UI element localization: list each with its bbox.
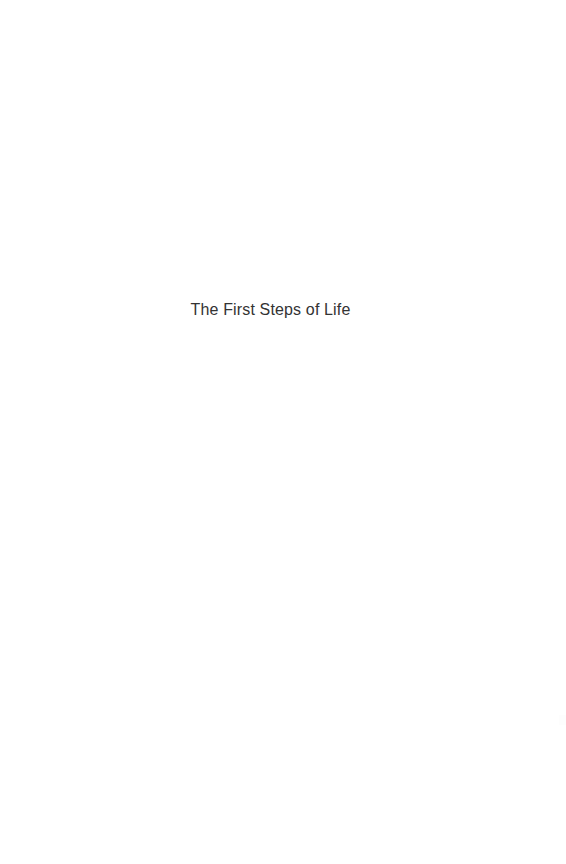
page-title-block: The First Steps of Life — [0, 299, 566, 321]
document-page: The First Steps of Life — [0, 0, 566, 864]
page-title: The First Steps of Life — [191, 299, 351, 321]
scan-artifact-mark — [559, 715, 566, 725]
